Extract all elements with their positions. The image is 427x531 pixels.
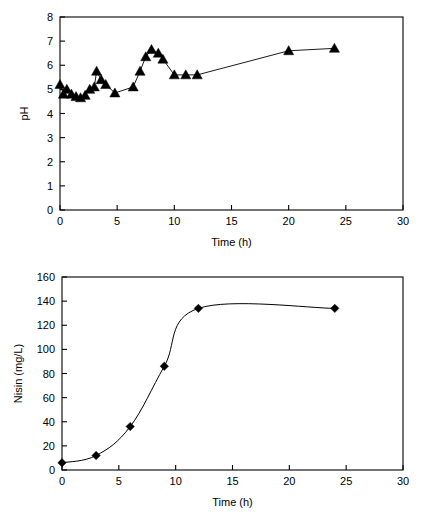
x-axis-tick-label: 0 [59,475,65,487]
data-point-marker [92,451,100,459]
nisin-chart-svg: 051015202530020406080100120140160Time (h… [0,265,427,531]
data-point-marker [146,45,156,54]
y-axis-tick-label: 100 [37,343,55,355]
y-axis-tick-label: 40 [43,416,55,428]
data-point-marker [135,66,145,75]
data-point-marker [55,79,65,88]
data-point-marker [92,66,102,75]
x-axis-title: Time (h) [212,496,253,508]
data-point-marker [58,459,66,467]
x-axis-tick-label: 5 [114,215,120,227]
x-axis-tick-label: 30 [397,475,409,487]
y-axis-tick-label: 160 [37,271,55,283]
plot-frame [62,277,403,470]
plot-frame [60,17,403,210]
chart-panel-nisin: 051015202530020406080100120140160Time (h… [0,265,427,531]
x-axis-tick-label: 10 [170,475,182,487]
y-axis-tick-label: 2 [47,156,53,168]
data-point-marker [160,362,168,370]
y-axis-tick-label: 5 [47,83,53,95]
figure-two-panel-chart: 051015202530012345678Time (h)pH 05101520… [0,0,427,531]
y-axis-tick-label: 140 [37,295,55,307]
y-axis-tick-label: 0 [47,204,53,216]
ph-chart-svg: 051015202530012345678Time (h)pH [0,0,427,265]
data-point-marker [329,43,339,52]
y-axis-tick-label: 120 [37,319,55,331]
series-line [62,304,335,463]
x-axis-title: Time (h) [211,236,252,248]
y-axis-title: Nisin (mg/L) [12,344,24,403]
y-axis-tick-label: 0 [49,464,55,476]
x-axis-tick-label: 30 [397,215,409,227]
y-axis-tick-label: 7 [47,35,53,47]
chart-panel-ph: 051015202530012345678Time (h)pH [0,0,427,265]
y-axis-tick-label: 20 [43,440,55,452]
x-axis-tick-label: 20 [283,475,295,487]
x-axis-tick-label: 15 [226,475,238,487]
y-axis-tick-label: 80 [43,368,55,380]
data-point-marker [331,304,339,312]
x-axis-tick-label: 25 [340,215,352,227]
data-point-marker [181,70,191,79]
x-axis-tick-label: 25 [340,475,352,487]
x-axis-tick-label: 5 [116,475,122,487]
y-axis-tick-label: 6 [47,59,53,71]
data-point-marker [169,70,179,79]
data-point-marker [128,82,138,91]
y-axis-tick-label: 4 [47,108,53,120]
x-axis-tick-label: 0 [57,215,63,227]
y-axis-title: pH [18,106,30,120]
data-point-marker [194,304,202,312]
y-axis-tick-label: 3 [47,132,53,144]
x-axis-tick-label: 20 [283,215,295,227]
x-axis-tick-label: 15 [225,215,237,227]
x-axis-tick-label: 10 [168,215,180,227]
y-axis-tick-label: 8 [47,11,53,23]
y-axis-tick-label: 1 [47,180,53,192]
y-axis-tick-label: 60 [43,392,55,404]
